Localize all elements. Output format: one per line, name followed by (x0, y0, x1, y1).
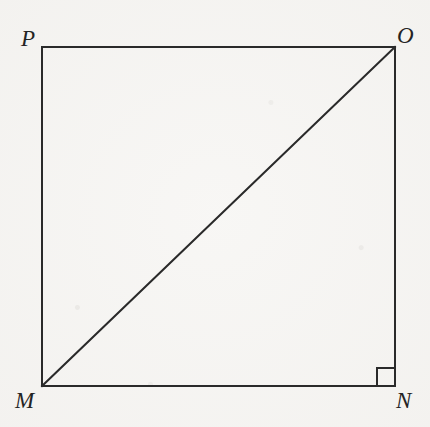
geometry-drawing (0, 0, 430, 427)
vertex-label-N: N (396, 389, 411, 412)
vertex-label-O: O (397, 24, 414, 47)
vertex-label-P: P (21, 27, 35, 50)
right-angle-marker-N (377, 368, 395, 386)
geometry-figure: P O N M (0, 0, 430, 427)
diagonal-MO (42, 47, 395, 386)
vertex-label-M: M (15, 389, 34, 412)
